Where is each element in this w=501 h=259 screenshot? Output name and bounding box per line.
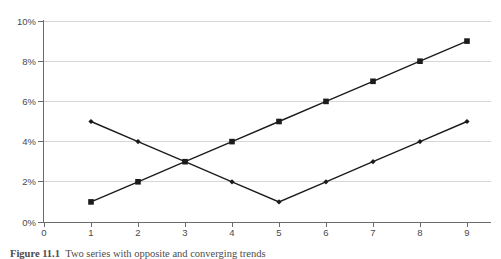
data-point-marker (417, 58, 423, 64)
series-line (91, 122, 467, 202)
data-point-marker (135, 139, 140, 144)
chart-plot-area: 10% 8% 6% 4% 2% 0% 0 1 2 3 4 5 6 7 8 9 (0, 0, 501, 236)
data-point-marker (135, 179, 141, 185)
data-point-marker (370, 159, 375, 164)
data-point-marker (417, 139, 422, 144)
data-point-marker (464, 38, 470, 44)
data-point-marker (323, 99, 329, 105)
data-series-layer (0, 0, 501, 236)
data-point-marker (88, 199, 94, 205)
data-point-marker (88, 119, 93, 124)
data-point-marker (323, 179, 328, 184)
figure-container: 10% 8% 6% 4% 2% 0% 0 1 2 3 4 5 6 7 8 9 (0, 0, 501, 259)
figure-caption-label: Figure 11.1 (10, 248, 60, 259)
data-point-marker (464, 119, 469, 124)
data-point-marker (276, 119, 282, 125)
series-v-shaped (88, 119, 469, 205)
data-point-marker (229, 179, 234, 184)
figure-caption: Figure 11.1 Two series with opposite and… (10, 247, 495, 259)
series-rising (88, 38, 470, 204)
data-point-marker (276, 199, 281, 204)
data-point-marker (229, 139, 235, 145)
figure-caption-text: Two series with opposite and converging … (65, 248, 265, 259)
data-point-marker (370, 79, 376, 85)
